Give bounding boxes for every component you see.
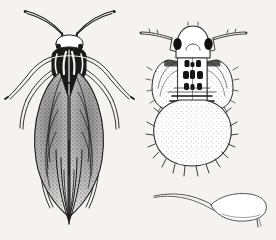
illustration-plate: Alate (winged) aphid in dorsal view with… [0, 0, 276, 240]
eye-right [204, 38, 212, 50]
plate-canvas [0, 0, 276, 240]
eye-left [173, 38, 181, 50]
dorsal-sclerites [183, 60, 203, 90]
thorax [178, 58, 207, 104]
